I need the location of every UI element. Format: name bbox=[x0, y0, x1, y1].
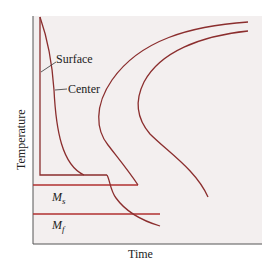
ms-label-sub: s bbox=[62, 196, 66, 206]
mf-label: Mf bbox=[52, 218, 65, 234]
mf-label-sub: f bbox=[62, 224, 65, 234]
ms-label-main: M bbox=[52, 190, 62, 204]
diagram-canvas bbox=[0, 0, 277, 266]
center-label: Center bbox=[68, 82, 100, 97]
diagram-figure: Surface Center Ms Mf Time Temperature bbox=[0, 0, 277, 266]
y-axis-label: Temperature bbox=[14, 110, 29, 170]
ms-label: Ms bbox=[52, 190, 66, 206]
surface-label: Surface bbox=[56, 52, 93, 67]
mf-label-main: M bbox=[52, 218, 62, 232]
x-axis-label: Time bbox=[128, 247, 153, 262]
